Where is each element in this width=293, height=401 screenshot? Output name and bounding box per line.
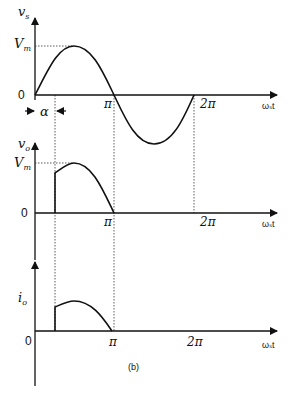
output-current-wave [55, 301, 112, 331]
y-axis-label: io [18, 290, 27, 307]
origin-label: 0 [25, 334, 32, 348]
output-voltage-wave [55, 163, 114, 213]
alpha-label: α [40, 104, 49, 119]
tick-2pi: 2π [186, 335, 204, 349]
plot-output-current: io 0 π 2π ωₛt (b) [18, 262, 277, 386]
plot-output-voltage: vo Vm 0 π 2π ωₛt [14, 136, 277, 260]
peak-label: Vm [14, 36, 31, 53]
waveform-diagram: vs Vm 0 π 2π ωₛt α vo Vm 0 π 2π ωₛt io 0… [0, 0, 293, 401]
y-axis-label: vs [18, 4, 29, 21]
x-axis-label: ωₛt [262, 101, 275, 111]
figure-caption: (b) [128, 362, 139, 372]
tick-2pi: 2π [199, 215, 217, 229]
x-axis-label: ωₛt [262, 219, 275, 229]
tick-pi: π [103, 97, 113, 111]
alpha-indicator: α [25, 104, 66, 119]
origin-label: 0 [21, 206, 28, 220]
tick-pi: π [103, 215, 113, 229]
tick-pi: π [108, 335, 118, 349]
peak-label: Vm [14, 155, 31, 172]
plot-source-voltage: vs Vm 0 π 2π ωₛt α [14, 4, 277, 144]
y-axis-label: vo [18, 136, 30, 153]
x-axis-label: ωₛt [262, 340, 275, 350]
tick-2pi: 2π [199, 97, 217, 111]
origin-label: 0 [18, 88, 25, 102]
